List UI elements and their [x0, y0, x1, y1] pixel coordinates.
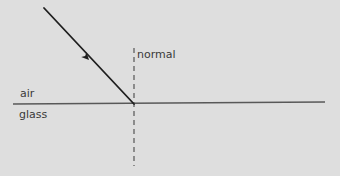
incident-ray	[44, 8, 134, 104]
diagram-canvas	[0, 0, 340, 176]
refraction-diagram: normal air glass	[0, 0, 340, 176]
air-label: air	[20, 88, 34, 100]
boundary-line	[13, 102, 325, 104]
normal-label: normal	[137, 49, 176, 61]
glass-label: glass	[19, 109, 47, 121]
